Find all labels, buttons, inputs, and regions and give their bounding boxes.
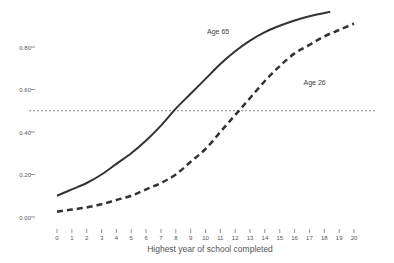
x-tick-label: 14 bbox=[262, 235, 269, 241]
x-tick-label: 19 bbox=[336, 235, 343, 241]
x-tick-label: 6 bbox=[144, 235, 148, 241]
x-tick-label: 9 bbox=[189, 235, 193, 241]
annotation-age-26: Age 26 bbox=[304, 79, 326, 87]
annotation-age-65: Age 65 bbox=[207, 28, 229, 36]
x-tick-label: 0 bbox=[55, 235, 59, 241]
x-tick-label: 17 bbox=[306, 235, 313, 241]
x-tick-label: 12 bbox=[232, 235, 239, 241]
x-tick-label: 15 bbox=[276, 235, 283, 241]
y-tick-label: 0.80 bbox=[19, 45, 31, 51]
y-tick-label: 0.40 bbox=[19, 130, 31, 136]
x-tick-label: 11 bbox=[217, 235, 224, 241]
x-tick-label: 4 bbox=[115, 235, 119, 241]
x-tick-label: 18 bbox=[321, 235, 328, 241]
y-axis: 0.000.200.400.600.80 bbox=[19, 45, 35, 221]
x-tick-label: 16 bbox=[291, 235, 298, 241]
x-tick-label: 3 bbox=[100, 235, 104, 241]
y-tick-label: 0.60 bbox=[19, 87, 31, 93]
x-axis-label: Highest year of school completed bbox=[147, 244, 273, 254]
x-axis: 01234567891011121314151617181920 bbox=[55, 229, 358, 241]
y-tick-label: 0.20 bbox=[19, 172, 31, 178]
x-tick-label: 20 bbox=[351, 235, 358, 241]
x-tick-label: 10 bbox=[202, 235, 209, 241]
x-tick-label: 5 bbox=[130, 235, 134, 241]
x-tick-label: 2 bbox=[85, 235, 89, 241]
series-age-26-line bbox=[57, 24, 354, 212]
x-tick-label: 1 bbox=[70, 235, 74, 241]
x-tick-label: 13 bbox=[247, 235, 254, 241]
series-age-65-line bbox=[57, 12, 330, 196]
x-tick-label: 8 bbox=[174, 235, 178, 241]
line-chart: 0.000.200.400.600.80 0123456789101112131… bbox=[0, 0, 394, 263]
y-tick-label: 0.00 bbox=[19, 215, 31, 221]
x-tick-label: 7 bbox=[159, 235, 163, 241]
